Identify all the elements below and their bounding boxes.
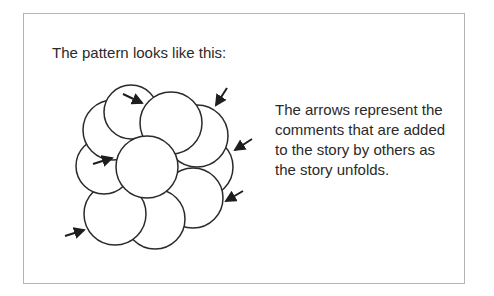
arrows-description: The arrows represent the comments that a… bbox=[275, 100, 455, 180]
arrow-icon bbox=[216, 88, 227, 105]
circles bbox=[76, 85, 233, 249]
description-line: The arrows represent the bbox=[275, 100, 455, 120]
circle-center bbox=[116, 136, 178, 198]
description-line: the story unfolds. bbox=[275, 160, 455, 180]
arrow-icon bbox=[235, 139, 252, 150]
description-line: to the story by others as bbox=[275, 140, 455, 160]
arrow-icon bbox=[226, 191, 243, 201]
arrow-icon bbox=[65, 230, 84, 236]
description-line: comments that are added bbox=[275, 120, 455, 140]
